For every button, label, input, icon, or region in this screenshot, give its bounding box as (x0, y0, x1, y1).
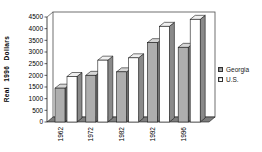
legend-key-georgia-icon (218, 67, 223, 72)
bar-front (129, 58, 139, 122)
legend-item-us: U.S. (218, 76, 249, 83)
bar-front (190, 19, 200, 122)
bar-side (77, 73, 82, 123)
bar-U.S.-1962 (67, 73, 82, 123)
bar-U.S.-1982 (129, 54, 144, 122)
bar-front (55, 88, 65, 122)
y-axis-title: Real 1996 Dollars (3, 9, 11, 129)
bar-side (108, 56, 113, 122)
y-tick-label: 4000 (29, 25, 44, 32)
y-tick-label: 2000 (29, 72, 44, 79)
bar-U.S.-1992 (159, 22, 174, 122)
bar-front (86, 75, 96, 122)
bar-U.S.-1996 (190, 15, 205, 122)
bar-front (98, 60, 108, 122)
bar-side (200, 15, 205, 122)
legend: Georgia U.S. (218, 66, 249, 83)
x-tick-label: 1972 (87, 127, 94, 142)
x-tick-label: 1962 (57, 127, 64, 142)
legend-label-georgia: Georgia (226, 66, 249, 73)
wall-top-edge (47, 12, 53, 17)
bar-front (159, 26, 169, 122)
x-tick-label: 1996 (180, 127, 187, 142)
x-tick-label: 1982 (118, 127, 125, 142)
bar-side (169, 22, 174, 122)
y-tick-label: 3000 (29, 48, 44, 55)
y-tick-label: 1500 (29, 83, 44, 90)
y-tick-label: 500 (32, 107, 43, 114)
x-tick-label: 1992 (149, 127, 156, 142)
legend-item-georgia: Georgia (218, 66, 249, 73)
y-tick-label: 2500 (29, 60, 44, 67)
bar-front (67, 77, 77, 123)
legend-label-us: U.S. (226, 76, 239, 83)
bar-front (147, 43, 157, 122)
legend-key-us-icon (218, 77, 223, 82)
chart-canvas: 0500100015002000250030003500400045001962… (0, 0, 262, 152)
bar-front (117, 72, 127, 122)
bar-front (178, 47, 188, 122)
bar-side (139, 54, 144, 122)
y-tick-label: 0 (39, 118, 43, 125)
y-tick-label: 4500 (29, 13, 44, 20)
bar-U.S.-1972 (98, 56, 113, 122)
y-tick-label: 1000 (29, 95, 44, 102)
y-tick-label: 3500 (29, 37, 44, 44)
